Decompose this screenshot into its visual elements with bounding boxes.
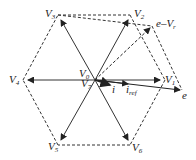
label-v2: V2: [134, 7, 145, 21]
label-v7: V7: [81, 77, 92, 91]
label-v1: V1: [165, 73, 175, 87]
label-v5: V5: [48, 140, 59, 154]
label-e-minus-vr: e–Vr: [156, 17, 176, 31]
label-e: e: [182, 89, 187, 101]
label-v4: V4: [9, 73, 20, 87]
label-v3: V3: [45, 7, 56, 21]
space-vector-diagram: V3 V2 e–Vr V4 V0 V7 V1 i iref e V5 V6: [0, 0, 196, 160]
label-i: i: [112, 83, 115, 95]
label-v6: V6: [132, 141, 143, 155]
basic-vectors: [28, 20, 160, 140]
